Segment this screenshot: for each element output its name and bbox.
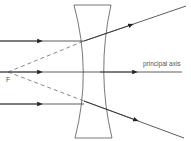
top-refracted-arrow [84,25,131,41]
bottom-refracted-arrow [84,101,136,120]
bottom-virtual-ray [8,72,84,101]
ray-diagram: F principal axis [0,0,191,141]
top-virtual-ray [8,41,84,72]
focal-point-label: F [6,76,10,83]
principal-axis-label: principal axis [143,60,181,68]
concave-lens [74,5,112,138]
